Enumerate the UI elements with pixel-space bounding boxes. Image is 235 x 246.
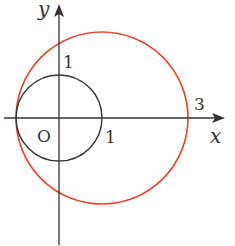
diagram-canvas: y x O 1 1 3: [0, 0, 235, 246]
tick-label-x-3: 3: [194, 94, 205, 114]
origin-label: O: [37, 126, 51, 146]
x-axis-label: x: [210, 124, 221, 148]
tick-label-x-1: 1: [105, 127, 116, 147]
y-axis-label: y: [37, 0, 50, 21]
tick-label-y-1: 1: [63, 52, 74, 72]
